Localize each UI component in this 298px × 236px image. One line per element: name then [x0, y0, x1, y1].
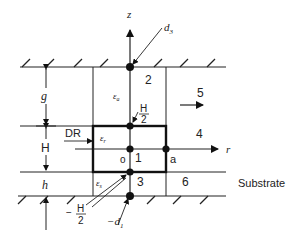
g-dimension-label: g: [41, 89, 47, 103]
radius-a-label: a: [170, 153, 177, 165]
bottom-ground-plane: [18, 196, 226, 204]
half-height-top-label: H 2: [139, 103, 149, 125]
region-6-label: 6: [182, 175, 189, 189]
region-3-label: 3: [137, 175, 144, 189]
top-ground-plane: [20, 59, 226, 67]
svg-text:H: H: [77, 203, 84, 214]
region-1-label: 1: [135, 151, 142, 165]
origin-label: o: [120, 154, 126, 165]
dr-label: DR: [65, 127, 81, 139]
svg-text:2: 2: [141, 114, 147, 125]
r-axis-label: r: [226, 143, 231, 155]
svg-text:H: H: [140, 103, 147, 114]
substrate-label: Substrate: [238, 177, 285, 189]
region-2-label: 2: [145, 73, 152, 87]
svg-text:−: −: [66, 207, 72, 218]
resonator-diagram: z r d3 2 5 4 1 3 6 εa εr εs DR o a Subst…: [0, 0, 298, 236]
H-dimension-label: H: [41, 141, 50, 155]
d3-label: d3: [164, 21, 174, 36]
svg-text:2: 2: [78, 215, 84, 226]
epsilon-a-label: εa: [113, 91, 120, 102]
half-height-bottom-label: − H 2: [66, 203, 86, 226]
z-axis-label: z: [126, 8, 132, 20]
epsilon-s-label: εs: [96, 178, 103, 189]
region-4-label: 4: [196, 127, 203, 141]
region-5-label: 5: [197, 86, 204, 100]
h-dimension-label: h: [42, 178, 48, 192]
epsilon-r-label: εr: [100, 133, 107, 144]
